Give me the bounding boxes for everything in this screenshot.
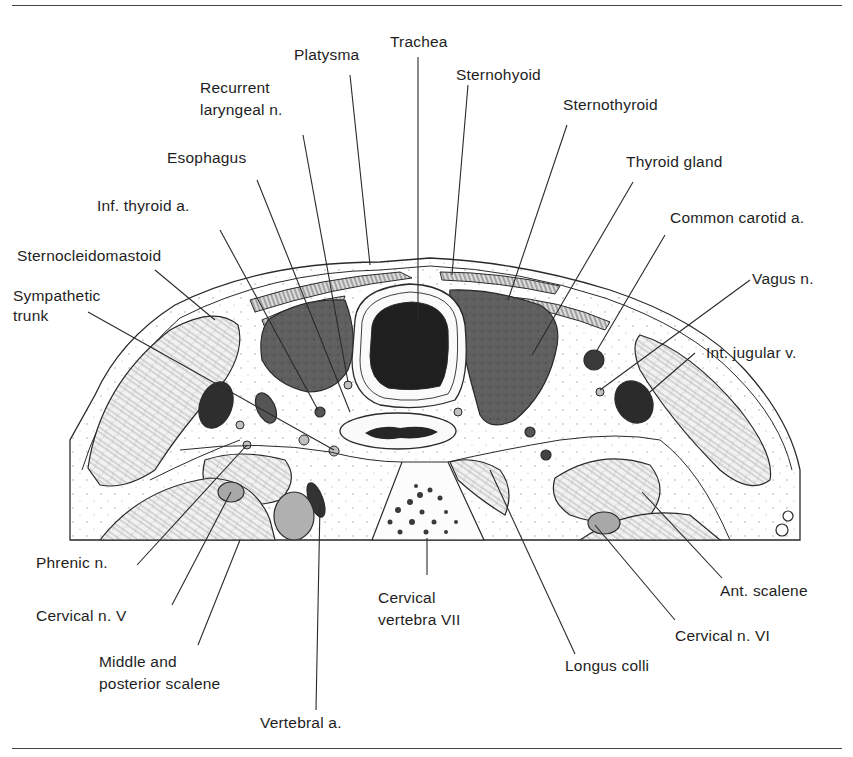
label-int-jugular: Int. jugular v.	[706, 343, 797, 363]
leader-platysma	[350, 75, 370, 265]
esophagus	[340, 413, 456, 449]
label-sympathetic-line2: trunk	[13, 306, 48, 326]
label-recurrent-line1: Recurrent	[200, 78, 270, 98]
label-inf-thyroid: Inf. thyroid a.	[97, 196, 190, 216]
label-sternothyroid: Sternothyroid	[563, 95, 658, 115]
label-common-carotid: Common carotid a.	[670, 208, 804, 228]
label-longus-colli: Longus colli	[565, 656, 649, 676]
label-ant-scalene: Ant. scalene	[720, 581, 808, 601]
label-cervical-n-v: Cervical n. V	[36, 606, 126, 626]
label-esophagus: Esophagus	[167, 148, 246, 168]
label-middle-scalene-line1: Middle and	[99, 652, 177, 672]
label-sternohyoid: Sternohyoid	[456, 65, 541, 85]
label-phrenic: Phrenic n.	[36, 553, 108, 573]
label-recurrent-line2: laryngeal n.	[200, 100, 283, 120]
label-middle-scalene-line2: posterior scalene	[99, 674, 220, 694]
label-platysma: Platysma	[294, 45, 359, 65]
label-trachea: Trachea	[390, 32, 448, 52]
label-vertebral: Vertebral a.	[260, 713, 342, 733]
label-vagus: Vagus n.	[752, 269, 814, 289]
label-thyroid-gland: Thyroid gland	[626, 152, 723, 172]
label-cervical-n-vi: Cervical n. VI	[675, 626, 770, 646]
label-sternocleidomastoid: Sternocleidomastoid	[17, 246, 161, 266]
label-cervical-vertebra-line1: Cervical	[378, 588, 436, 608]
leader-sternohyoid	[452, 85, 468, 275]
trachea	[352, 284, 466, 408]
leader-middle-posterior-scalene	[198, 540, 240, 645]
label-cervical-vertebra-line2: vertebra VII	[378, 610, 461, 630]
label-sympathetic-line1: Sympathetic	[13, 286, 101, 306]
